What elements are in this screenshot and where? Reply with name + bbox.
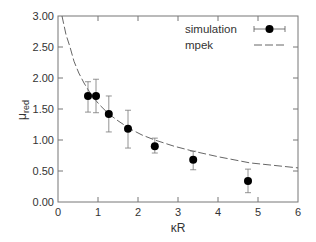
simulation-point <box>84 82 92 112</box>
y-axis-label-sub: red <box>21 100 31 113</box>
legend-simulation-marker <box>266 25 274 33</box>
x-tick-label: 2 <box>135 206 141 218</box>
axis-ticks: 01234560.000.501.001.502.002.503.00 <box>33 10 301 218</box>
x-tick-label: 3 <box>175 206 181 218</box>
legend-label-mpek: mpek <box>185 39 213 51</box>
simulation-point <box>244 169 252 193</box>
plot-border <box>58 16 298 202</box>
x-tick-label: 1 <box>95 206 101 218</box>
y-tick-label: 2.50 <box>33 41 54 53</box>
data-marker <box>92 92 100 100</box>
x-tick-label: 0 <box>55 206 61 218</box>
simulation-point <box>124 110 132 148</box>
legend-label-simulation: simulation <box>185 23 237 35</box>
data-marker <box>244 177 252 185</box>
y-axis-label: μred <box>15 100 31 120</box>
legend: simulation mpek <box>185 23 285 51</box>
x-axis-label: κR <box>171 221 186 235</box>
svg-text:μred: μred <box>15 100 31 120</box>
y-tick-label: 0.50 <box>33 165 54 177</box>
data-marker <box>151 142 159 150</box>
simulation-point <box>151 138 159 153</box>
simulation-point <box>92 79 100 112</box>
y-tick-label: 1.50 <box>33 103 54 115</box>
mpek-curve-layer <box>62 16 298 168</box>
simulation-points-layer <box>84 79 252 192</box>
data-marker <box>124 125 132 133</box>
data-marker <box>189 156 197 164</box>
x-tick-label: 4 <box>215 206 221 218</box>
x-tick-label: 6 <box>295 206 301 218</box>
y-tick-label: 2.00 <box>33 72 54 84</box>
data-marker <box>105 110 113 118</box>
plot-frame <box>58 16 298 202</box>
simulation-point <box>189 151 197 170</box>
x-tick-label: 5 <box>255 206 261 218</box>
mpek-line <box>62 16 298 168</box>
simulation-point <box>105 96 113 132</box>
y-tick-label: 1.00 <box>33 134 54 146</box>
data-marker <box>84 92 92 100</box>
y-tick-label: 0.00 <box>33 196 54 208</box>
y-tick-label: 3.00 <box>33 10 54 22</box>
chart: 01234560.000.501.001.502.002.503.00 simu… <box>0 0 316 242</box>
